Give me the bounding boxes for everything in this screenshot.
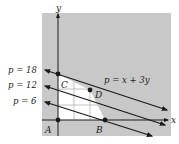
point-b-label: B (95, 125, 103, 135)
level-label-p18: p = 18 (8, 65, 37, 75)
level-label-p6: p = 6 (13, 96, 37, 106)
level-label-p12: p = 12 (8, 80, 37, 90)
point-c-label: C (61, 80, 68, 90)
point-b-marker (103, 118, 108, 123)
objective-label: p = x + 3y (104, 75, 150, 85)
point-a-marker (56, 118, 61, 123)
x-axis-label: x (171, 115, 176, 125)
point-c-marker (56, 72, 61, 77)
linear-programming-diagram: y x p = x + 3y p = 18 p = 12 p = 6 A B C… (0, 0, 179, 144)
y-axis-label: y (55, 3, 62, 13)
point-d-label: D (94, 90, 102, 100)
point-d-marker (88, 88, 93, 93)
point-a-label: A (44, 125, 52, 135)
